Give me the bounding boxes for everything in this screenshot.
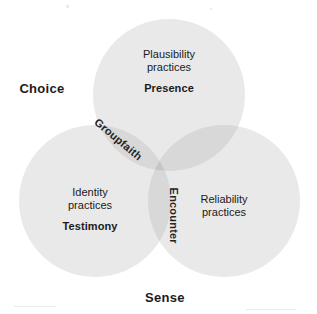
venn-diagram-figure: Plausibility practices Presence Identity…: [0, 0, 317, 314]
venn-circles-graphic: [0, 0, 317, 314]
